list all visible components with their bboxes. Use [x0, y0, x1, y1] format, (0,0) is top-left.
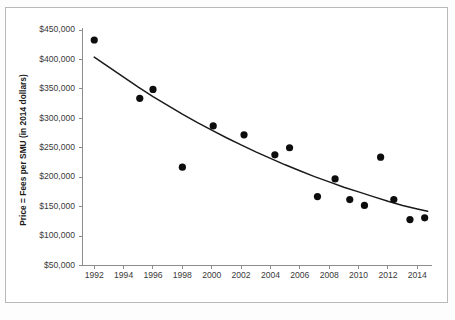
chart-figure: Price = Fees per SMU (in 2014 dollars) $…	[0, 0, 455, 320]
x-tick-label: 1994	[114, 270, 133, 280]
y-tick-label: $250,000	[39, 142, 75, 152]
y-tick-label: $200,000	[39, 171, 75, 181]
data-point	[314, 193, 321, 200]
data-point	[331, 175, 338, 182]
x-tick-label: 1998	[173, 270, 192, 280]
data-point	[179, 164, 186, 171]
y-tick-label: $350,000	[39, 83, 75, 93]
y-tick-label: $150,000	[39, 201, 75, 211]
plot-area: Price = Fees per SMU (in 2014 dollars) $…	[0, 0, 455, 320]
y-tick-label: $450,000	[39, 24, 75, 34]
trend-line	[94, 57, 427, 211]
y-tick-label: $100,000	[39, 230, 75, 240]
scatter-chart: Price = Fees per SMU (in 2014 dollars) $…	[0, 0, 455, 320]
y-tick-label: $50,000	[44, 260, 75, 270]
data-point	[346, 196, 353, 203]
y-axis-tick-labels: $450,000$400,000$350,000$300,000$250,000…	[39, 24, 75, 270]
data-point	[390, 196, 397, 203]
data-point	[286, 144, 293, 151]
data-point	[240, 131, 247, 138]
x-tick-label: 2014	[408, 270, 427, 280]
y-axis-title: Price = Fees per SMU (in 2014 dollars)	[18, 74, 28, 226]
x-tick-label: 2000	[202, 270, 221, 280]
y-tick-label: $300,000	[39, 113, 75, 123]
x-tick-label: 2002	[232, 270, 251, 280]
data-point	[377, 154, 384, 161]
y-tick-label: $400,000	[39, 54, 75, 64]
x-tick-label: 1996	[143, 270, 162, 280]
x-tick-label: 2010	[349, 270, 368, 280]
x-tick-label: 2008	[320, 270, 339, 280]
data-point	[136, 95, 143, 102]
x-axis-tick-labels: 1992199419961998200020022004200620082010…	[85, 270, 427, 280]
x-tick-label: 1992	[85, 270, 104, 280]
x-tick-label: 2012	[378, 270, 397, 280]
data-point	[210, 122, 217, 129]
data-point	[406, 216, 413, 223]
data-points	[91, 36, 429, 223]
data-point	[149, 86, 156, 93]
data-point	[91, 36, 98, 43]
y-axis-title-group: Price = Fees per SMU (in 2014 dollars)	[18, 74, 28, 226]
x-tick-label: 2006	[290, 270, 309, 280]
data-point	[361, 202, 368, 209]
data-point	[271, 151, 278, 158]
y-axis-tick-marks	[79, 30, 83, 266]
data-point	[421, 214, 428, 221]
x-tick-label: 2004	[261, 270, 280, 280]
